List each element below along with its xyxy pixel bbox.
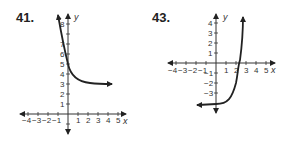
svg-text:3: 3: [96, 116, 101, 125]
svg-text:5: 5: [60, 60, 65, 69]
svg-text:x: x: [122, 116, 128, 126]
svg-text:−2: −2: [204, 79, 214, 88]
graph-41: −4−3 −2−1 12 34 5 x 12 34 56 78 y: [20, 12, 128, 134]
svg-text:−4: −4: [22, 116, 32, 125]
svg-text:3: 3: [60, 80, 65, 89]
svg-text:−3: −3: [204, 89, 214, 98]
svg-text:x: x: [270, 65, 276, 75]
graphs: −4−3 −2−1 12 34 5 x 12 34 56 78 y −4−3: [0, 0, 295, 141]
svg-text:1: 1: [224, 66, 229, 75]
svg-text:5: 5: [264, 66, 269, 75]
svg-text:4: 4: [106, 116, 111, 125]
svg-text:−2: −2: [188, 66, 198, 75]
svg-text:1: 1: [76, 116, 81, 125]
svg-text:−4: −4: [168, 66, 178, 75]
svg-text:2: 2: [208, 39, 213, 48]
svg-text:3: 3: [244, 66, 249, 75]
svg-text:y: y: [222, 12, 228, 22]
svg-text:−1: −1: [204, 69, 214, 78]
svg-text:−1: −1: [52, 116, 62, 125]
svg-text:4: 4: [208, 19, 213, 28]
svg-text:−2: −2: [42, 116, 52, 125]
svg-text:3: 3: [208, 29, 213, 38]
svg-text:2: 2: [86, 116, 91, 125]
svg-text:5: 5: [116, 116, 121, 125]
svg-text:1: 1: [208, 49, 213, 58]
graph-43: −4−3 −2−1 12 34 5 x 43 21 −1−2 −3 y: [168, 12, 276, 113]
svg-text:4: 4: [60, 70, 65, 79]
svg-text:y: y: [73, 12, 79, 22]
svg-text:1: 1: [60, 100, 65, 109]
svg-text:4: 4: [254, 66, 259, 75]
svg-text:2: 2: [60, 90, 65, 99]
svg-text:−3: −3: [178, 66, 188, 75]
svg-text:−3: −3: [32, 116, 42, 125]
